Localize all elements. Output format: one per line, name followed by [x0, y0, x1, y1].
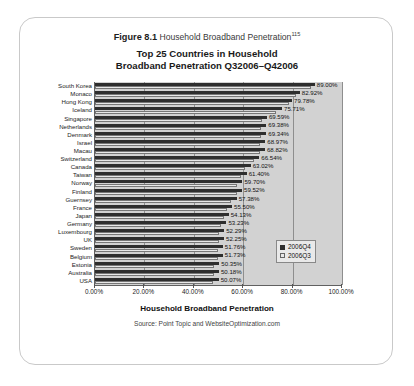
value-label: 54.13%: [231, 212, 252, 218]
category-label: Denmark: [67, 132, 92, 138]
bar-2006q3: [95, 216, 224, 219]
category-label: USA: [79, 278, 92, 284]
chart-row: USA50.07%: [95, 277, 342, 285]
value-label: 63.02%: [253, 163, 274, 169]
category-label: Germany: [67, 221, 92, 227]
category-label: Macau: [74, 148, 92, 154]
value-label: 59.70%: [244, 179, 265, 185]
category-label: Belgium: [70, 254, 92, 260]
bar-2006q3: [95, 208, 227, 211]
value-label: 82.92%: [302, 90, 323, 96]
x-tick-label: 20.00%: [133, 288, 155, 295]
value-label: 50.35%: [221, 261, 242, 267]
bar-2006q3: [95, 94, 296, 97]
category-label: Switzerland: [61, 156, 93, 162]
chart-row: Australia50.18%: [95, 269, 342, 277]
category-label: Japan: [75, 213, 92, 219]
value-label: 61.40%: [249, 171, 270, 177]
figure-card: Figure 8.1 Household Broadband Penetrati…: [19, 17, 393, 365]
x-tick-label: 0.00%: [85, 288, 103, 295]
chart-row: Guernsey57.38%: [95, 196, 342, 204]
bar-2006q3: [95, 167, 245, 170]
bar-2006q3: [95, 127, 261, 130]
value-label: 50.18%: [221, 269, 242, 275]
value-label: 55.50%: [234, 204, 255, 210]
x-tick-label: 60.00%: [231, 288, 253, 295]
chart-row: Canada63.02%: [95, 163, 342, 171]
value-label: 51.73%: [225, 252, 246, 258]
bar-2006q3: [95, 159, 254, 162]
figure-number: Figure 8.1: [114, 32, 157, 42]
bar-2006q3: [95, 184, 237, 187]
legend-item-q3: 2006Q3: [280, 252, 311, 261]
value-label: 50.07%: [221, 277, 242, 283]
category-label: Guernsey: [66, 197, 92, 203]
value-label: 79.78%: [294, 98, 315, 104]
category-label: Canada: [71, 164, 92, 170]
value-label: 59.52%: [244, 187, 265, 193]
chart-title-line-2: Broadband Penetration Q32006–Q42006: [23, 60, 391, 72]
category-label: Monaco: [70, 91, 92, 97]
value-label: 52.29%: [226, 228, 247, 234]
bar-2006q3: [95, 232, 219, 235]
bar-2006q3: [95, 102, 289, 105]
category-label: Australia: [68, 270, 92, 276]
chart-title-line-1: Top 25 Countries in Household: [23, 48, 391, 60]
bar-2006q3: [95, 273, 214, 276]
chart-legend: 2006Q4 2006Q3: [276, 240, 316, 263]
category-label: Iceland: [72, 107, 92, 113]
category-label: Estonia: [72, 262, 92, 268]
category-label: Israel: [77, 140, 92, 146]
bar-2006q3: [95, 135, 261, 138]
legend-label-q4: 2006Q4: [288, 243, 311, 252]
bar-2006q3: [95, 200, 231, 203]
chart-title: Top 25 Countries in Household Broadband …: [23, 48, 391, 72]
value-label: 68.82%: [267, 147, 288, 153]
figure-caption-text: Household Broadband Penetration: [160, 32, 292, 42]
chart-row: Japan54.13%: [95, 212, 342, 220]
category-label: Hong Kong: [62, 99, 93, 105]
chart-row: Netherlands69.38%: [95, 123, 342, 131]
bar-2006q3: [95, 249, 218, 252]
source-note: Source: Point Topic and WebsiteOptimizat…: [23, 320, 391, 327]
legend-swatch-icon-q3: [280, 253, 285, 258]
chart-row: Iceland75.71%: [95, 106, 342, 114]
figure-footnote-marker: 115: [291, 31, 300, 37]
chart-row: Macau68.82%: [95, 147, 342, 155]
chart-row: Taiwan61.40%: [95, 171, 342, 179]
bar-2006q3: [95, 257, 218, 260]
chart-row: Germany53.23%: [95, 220, 342, 228]
chart-row: Israel68.97%: [95, 139, 342, 147]
category-label: Luxembourg: [58, 229, 92, 235]
value-label: 69.38%: [268, 122, 289, 128]
bar-2006q3: [95, 281, 213, 284]
category-label: Sweden: [70, 245, 92, 251]
legend-swatch-icon-q4: [280, 245, 285, 250]
bar-2006q3: [95, 192, 237, 195]
bar-2006q3: [95, 111, 276, 114]
x-tick-label: 100.00%: [328, 288, 353, 295]
chart-row: Switzerland66.54%: [95, 155, 342, 163]
value-label: 89.00%: [317, 82, 338, 88]
category-label: France: [73, 205, 92, 211]
chart-row: Finland59.52%: [95, 188, 342, 196]
legend-label-q3: 2006Q3: [288, 252, 311, 261]
value-label: 75.71%: [284, 106, 305, 112]
chart-row: Norway59.70%: [95, 179, 342, 187]
gridline: [342, 82, 343, 285]
value-label: 69.34%: [268, 131, 289, 137]
bar-2006q3: [95, 224, 221, 227]
bar-2006q3: [95, 143, 260, 146]
x-tick-label: 40.00%: [182, 288, 204, 295]
chart-area: Top 25 Countries in Household Broadband …: [23, 48, 391, 358]
value-label: 69.59%: [269, 114, 290, 120]
value-label: 52.25%: [226, 236, 247, 242]
x-axis-ticks: 0.00%20.00%40.00%60.00%80.00%100.00%: [94, 288, 341, 300]
value-label: 53.23%: [228, 220, 249, 226]
x-axis-title: Household Broadband Penetration: [23, 304, 391, 313]
bar-2006q3: [95, 86, 311, 89]
category-label: Singapore: [64, 116, 92, 122]
bar-2006q3: [95, 175, 241, 178]
category-label: UK: [84, 237, 92, 243]
category-label: Taiwan: [73, 172, 92, 178]
